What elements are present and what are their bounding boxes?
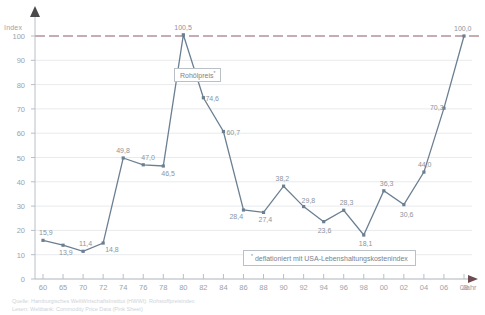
y-tick-label: 70 (3, 105, 25, 114)
data-point-marker (402, 203, 405, 206)
footnote-asterisk: * (251, 253, 253, 259)
data-point-value-label: 100,0 (454, 25, 472, 32)
x-tick-label: 80 (173, 283, 193, 292)
x-tick-label: 74 (113, 283, 133, 292)
data-point-value-label: 18,1 (359, 240, 373, 247)
footnote-text: deflationiert mit USA-Lebenshaltungskost… (255, 255, 408, 262)
data-point-value-label: 49,8 (116, 147, 130, 154)
y-tick-label: 30 (3, 202, 25, 211)
data-point-value-label: 14,8 (105, 246, 119, 253)
data-point-value-label: 11,4 (79, 240, 92, 247)
data-point-marker (282, 185, 285, 188)
data-point-marker (322, 220, 325, 223)
data-point-marker (142, 163, 145, 166)
data-point-marker (41, 239, 44, 242)
series-label-asterisk: * (213, 70, 215, 76)
series-label-text: Rohölpreis (180, 72, 213, 79)
data-point-marker (462, 34, 465, 37)
series-line-rohoelpreis (43, 35, 464, 252)
y-axis-title: Index (4, 24, 22, 31)
data-point-value-label: 28,4 (229, 213, 243, 220)
x-tick-label: 04 (414, 283, 434, 292)
y-tick-label: 60 (3, 129, 25, 138)
x-tick-label: 60 (33, 283, 53, 292)
y-tick-label: 50 (3, 154, 25, 163)
data-point-value-label: 36,3 (380, 180, 394, 187)
data-point-value-label: 74,6 (205, 95, 219, 102)
x-tick-marks (43, 274, 464, 279)
data-point-value-label: 100,5 (174, 24, 192, 31)
data-point-value-label: 23,6 (318, 227, 332, 234)
chart-root: Index 0102030405060708090100 60657072747… (0, 0, 485, 315)
x-tick-label: 70 (73, 283, 93, 292)
data-point-marker (222, 130, 225, 133)
x-tick-label: 90 (274, 283, 294, 292)
x-tick-label: 78 (153, 283, 173, 292)
y-axis-arrow-icon (30, 6, 40, 17)
data-point-marker (61, 244, 64, 247)
x-tick-label: 84 (213, 283, 233, 292)
data-point-value-label: 28,3 (340, 199, 354, 206)
data-point-value-label: 27,4 (259, 216, 273, 223)
chart-canvas (0, 0, 485, 315)
data-point-value-label: 38,2 (276, 175, 290, 182)
x-tick-label: 72 (93, 283, 113, 292)
y-tick-marks (31, 36, 35, 279)
x-tick-label: 98 (354, 283, 374, 292)
data-point-value-label: 13,9 (59, 249, 73, 256)
x-tick-label: 00 (374, 283, 394, 292)
y-tick-label: 100 (3, 32, 25, 41)
y-tick-label: 10 (3, 251, 25, 260)
x-tick-label: 02 (394, 283, 414, 292)
data-point-value-label: 29,8 (302, 197, 316, 204)
x-tick-label: 94 (314, 283, 334, 292)
x-tick-label: 92 (294, 283, 314, 292)
data-point-marker (262, 211, 265, 214)
y-tick-label: 0 (3, 275, 25, 284)
data-point-marker (302, 205, 305, 208)
x-tick-label: 86 (233, 283, 253, 292)
data-point-marker (81, 250, 84, 253)
x-tick-label: 76 (133, 283, 153, 292)
data-point-marker (182, 33, 185, 36)
series-label-box: Rohölpreis* (174, 68, 221, 82)
gridlines (35, 60, 472, 279)
data-point-marker (162, 164, 165, 167)
data-point-value-label: 60,7 (226, 129, 240, 136)
source-line-1: Quelle: Hamburgisches WeltWirtschaftsIns… (12, 297, 195, 305)
data-point-value-label: 44,0 (418, 161, 432, 168)
data-point-marker (422, 170, 425, 173)
data-point-marker (102, 241, 105, 244)
footnote-box: * deflationiert mit USA-Lebenshaltungsko… (243, 250, 416, 266)
y-tick-label: 80 (3, 81, 25, 90)
series-markers (41, 33, 465, 253)
data-point-value-label: 46,5 (161, 170, 175, 177)
source-line-2: Lesen: Weltbank: Commodity Price Data (P… (12, 305, 195, 313)
data-point-value-label: 70,3 (430, 104, 444, 111)
x-axis-arrow-icon (468, 275, 478, 283)
y-tick-label: 40 (3, 178, 25, 187)
x-axis-title: Jahr (462, 283, 477, 292)
x-tick-label: 88 (254, 283, 274, 292)
data-point-marker (122, 156, 125, 159)
data-point-value-label: 47,0 (141, 154, 155, 161)
source-note: Quelle: Hamburgisches WeltWirtschaftsIns… (12, 297, 195, 314)
x-tick-label: 96 (334, 283, 354, 292)
y-tick-label: 20 (3, 226, 25, 235)
data-point-value-label: 15,9 (39, 229, 53, 236)
data-point-marker (242, 208, 245, 211)
x-tick-label: 82 (193, 283, 213, 292)
data-point-value-label: 30,6 (400, 211, 414, 218)
x-tick-label: 06 (434, 283, 454, 292)
x-tick-label: 65 (53, 283, 73, 292)
data-point-marker (362, 233, 365, 236)
data-point-marker (342, 209, 345, 212)
data-point-marker (382, 189, 385, 192)
y-tick-label: 90 (3, 56, 25, 65)
